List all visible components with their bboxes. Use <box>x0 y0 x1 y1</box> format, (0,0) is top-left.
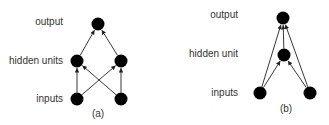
nodes-b <box>254 12 317 100</box>
node-hidden-h1 <box>71 55 84 68</box>
node-output-out <box>92 18 105 31</box>
edge-h1-to-out <box>283 25 284 49</box>
label-output-a: output <box>35 16 63 27</box>
label-hidden-b: hidden unit <box>189 48 238 59</box>
node-output-out <box>277 12 290 25</box>
edge-h2-to-out <box>102 30 118 56</box>
label-hidden-a: hidden units <box>9 55 63 66</box>
edge-h1-to-out <box>80 30 94 55</box>
edges-a <box>77 30 121 95</box>
label-inputs-b: inputs <box>211 87 238 98</box>
caption-a: (a) <box>92 108 104 119</box>
nodes-a <box>71 18 128 106</box>
diagram-a: output hidden units inputs (a) <box>9 16 127 119</box>
node-inputs-i1 <box>71 93 84 106</box>
node-inputs-i2 <box>115 93 128 106</box>
node-inputs-i2 <box>304 87 317 100</box>
node-inputs-i1 <box>254 87 267 100</box>
neural-network-diagrams: output hidden units inputs (a) output hi… <box>0 0 329 125</box>
node-hidden-h1 <box>278 49 291 62</box>
label-inputs-a: inputs <box>36 93 63 104</box>
caption-b: (b) <box>280 103 292 114</box>
diagram-b: output hidden unit inputs (b) <box>189 9 316 114</box>
node-hidden-h2 <box>115 55 128 68</box>
label-output-b: output <box>210 9 238 20</box>
